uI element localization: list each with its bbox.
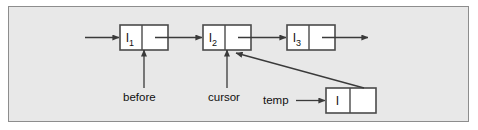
label-before: before xyxy=(123,92,156,104)
linked-list-diagram xyxy=(0,0,478,130)
node-1-value: l1 xyxy=(126,31,134,48)
node-1-subscript: 1 xyxy=(129,38,134,48)
node-2-value: l2 xyxy=(209,31,217,48)
node-2-subscript: 2 xyxy=(212,38,217,48)
node-3-value: l3 xyxy=(293,31,301,48)
label-cursor: cursor xyxy=(208,92,240,104)
diagram-canvas: l1 l2 l3 l before cursor temp xyxy=(0,0,478,130)
temp-next-arrow xyxy=(236,53,364,88)
node-temp-value: l xyxy=(336,94,339,111)
node-temp xyxy=(326,88,376,113)
node-3-subscript: 3 xyxy=(296,38,301,48)
label-temp: temp xyxy=(263,95,289,107)
node-temp-value-text: l xyxy=(336,93,339,108)
